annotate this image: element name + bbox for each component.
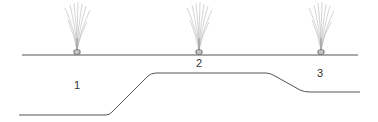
label-2: 2 xyxy=(196,57,202,69)
sprinkler-3 xyxy=(309,2,334,54)
spray-icon xyxy=(65,2,90,50)
spray-icon xyxy=(309,2,334,50)
sprinkler-diagram: 1 2 3 xyxy=(0,0,378,122)
label-1: 1 xyxy=(74,79,80,91)
label-3: 3 xyxy=(317,67,323,79)
terrain-profile xyxy=(19,73,360,115)
sprinkler-2 xyxy=(187,2,212,54)
sprinkler-1 xyxy=(65,2,90,54)
spray-icon xyxy=(187,2,212,50)
